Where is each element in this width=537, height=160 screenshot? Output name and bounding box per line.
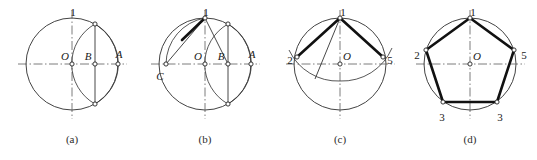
panel-a-label-A: A bbox=[115, 48, 123, 60]
panel-b-node-arc-top-cross bbox=[226, 22, 230, 26]
panel-b-caption: (b) bbox=[199, 133, 212, 146]
panel-b-label-B: B bbox=[218, 50, 225, 62]
panel-c-caption: (c) bbox=[334, 133, 347, 146]
panel-b-label-A: A bbox=[248, 48, 256, 60]
panel-b-node-midpoint-B bbox=[226, 62, 230, 66]
panel-c-node-center-O bbox=[338, 62, 342, 66]
panel-c-label-5: 5 bbox=[387, 54, 393, 66]
panel-d-label-O: O bbox=[473, 50, 481, 62]
panel-c-node-vertex-2 bbox=[295, 55, 299, 59]
panel-d-label-2: 2 bbox=[414, 49, 420, 61]
panel-d-label-3-left: 3 bbox=[439, 111, 445, 123]
panel-c: 1 O 2 5 (c) bbox=[286, 6, 395, 146]
panel-d-node-vertex-5 bbox=[512, 48, 516, 52]
panel-a-label-1: 1 bbox=[70, 6, 76, 18]
panel-d-node-vertex-2 bbox=[424, 48, 428, 52]
panel-a-node-midpoint-B bbox=[93, 62, 97, 66]
panel-d: 1 O 2 5 3 3 (d) bbox=[414, 6, 527, 146]
panel-b-node-point-A bbox=[249, 62, 253, 66]
panel-c-chord-1-to-2 bbox=[297, 18, 340, 57]
pentagon-construction-figure: 1 O B A (a) 1 O B A C (b) bbox=[0, 0, 537, 160]
panel-b-line-1-to-B bbox=[205, 18, 228, 64]
panel-a-node-arc-bottom-cross bbox=[93, 102, 97, 106]
panel-b-label-C: C bbox=[156, 70, 164, 82]
panel-a: 1 O B A (a) bbox=[18, 6, 127, 146]
panel-c-label-1: 1 bbox=[340, 6, 346, 18]
panel-a-node-point-A bbox=[116, 62, 120, 66]
panel-b-label-O: O bbox=[194, 50, 202, 62]
panel-d-node-center-O bbox=[468, 62, 472, 66]
panel-c-label-2: 2 bbox=[287, 54, 293, 66]
panel-d-node-vertex-3-right bbox=[495, 100, 499, 104]
panel-b-node-center-O bbox=[203, 62, 207, 66]
panel-d-node-vertex-3-left bbox=[441, 100, 445, 104]
panel-b-label-1: 1 bbox=[203, 6, 209, 18]
panel-c-label-O: O bbox=[343, 50, 351, 62]
panel-a-label-B: B bbox=[85, 50, 92, 62]
panel-c-compass-radius-line bbox=[315, 18, 340, 79]
panel-a-node-center-O bbox=[70, 62, 74, 66]
panel-d-label-5: 5 bbox=[521, 49, 527, 61]
panel-c-node-vertex-5 bbox=[381, 55, 385, 59]
panel-a-caption: (a) bbox=[66, 133, 79, 146]
panel-d-label-1: 1 bbox=[470, 6, 476, 18]
panel-a-label-O: O bbox=[61, 50, 69, 62]
panel-b-node-arc-bottom-cross bbox=[226, 102, 230, 106]
panel-d-caption: (d) bbox=[464, 133, 477, 146]
panel-a-node-arc-top-cross bbox=[93, 22, 97, 26]
panel-b-node-point-C bbox=[164, 62, 168, 66]
panel-b: 1 O B A C (b) bbox=[151, 6, 260, 146]
panel-d-label-3-right: 3 bbox=[497, 111, 503, 123]
